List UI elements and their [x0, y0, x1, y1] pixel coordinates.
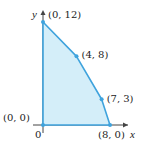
feasible-region-chart: (0, 0)(0, 12)(4, 8)(7, 3)(8, 0) x y 0 [0, 0, 147, 155]
vertex-label: (7, 3) [107, 93, 134, 104]
vertex-label: (8, 0) [98, 129, 125, 140]
x-axis-arrow-icon [123, 123, 128, 128]
vertex-point [75, 54, 79, 58]
vertex-label: (4, 8) [82, 49, 109, 60]
vertex-point [41, 123, 45, 127]
y-axis-arrow-icon [41, 10, 46, 15]
region-polygon [43, 22, 110, 125]
vertex-point [108, 123, 112, 127]
vertex-label: (0, 12) [48, 9, 81, 20]
origin-label: 0 [35, 129, 41, 140]
vertex-label: (0, 0) [3, 112, 30, 123]
x-axis-label: x [129, 128, 135, 140]
vertex-point [100, 97, 104, 101]
vertex-point [41, 20, 45, 24]
feasible-region [43, 22, 110, 125]
y-axis-label: y [31, 8, 37, 20]
